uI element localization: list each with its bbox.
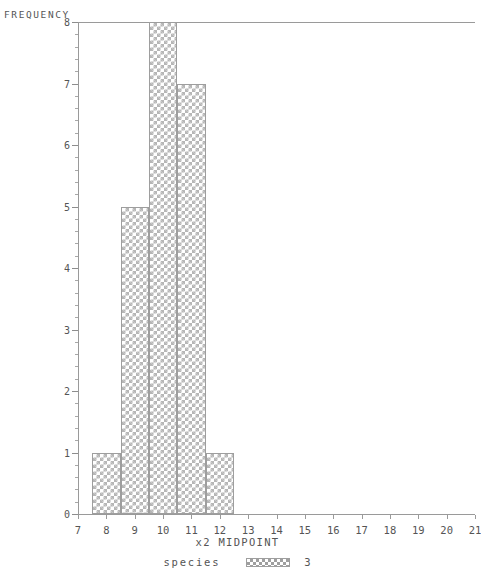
y-minor-tick [75,489,78,490]
y-minor-tick [75,293,78,294]
y-tick-label: 5 [64,201,70,212]
y-minor-tick [75,428,78,429]
legend-value: 3 [304,556,311,568]
y-minor-tick [75,96,78,97]
x-tick-label: 8 [103,524,109,536]
y-tick-mark [72,145,78,146]
plot-area: 012345678 789101112131415161718192021 [78,22,475,515]
y-minor-tick [75,243,78,244]
y-minor-tick [75,379,78,380]
x-tick-label: 9 [132,524,138,536]
y-tick-mark [72,22,78,23]
x-tick-mark [447,515,448,519]
x-tick-mark [475,515,476,519]
y-tick-label: 1 [64,447,70,458]
y-minor-tick [75,47,78,48]
y-minor-tick [75,59,78,60]
y-minor-tick [75,182,78,183]
y-tick-label: 6 [64,140,70,151]
x-tick-label: 19 [412,524,425,536]
y-tick-label: 8 [64,17,70,28]
x-tick-mark [191,515,192,519]
x-tick-mark [418,515,419,519]
x-tick-label: 11 [185,524,198,536]
y-minor-tick [75,34,78,35]
y-minor-tick [75,317,78,318]
y-axis-line [78,22,79,515]
y-minor-tick [75,502,78,503]
y-minor-tick [75,440,78,441]
y-minor-tick [75,416,78,417]
y-minor-tick [75,465,78,466]
legend-label: species [163,556,220,568]
chart-legend: species 3 [0,556,475,568]
bar-midpoint-11 [177,84,205,515]
x-tick-mark [277,515,278,519]
y-minor-tick [75,71,78,72]
x-tick-mark [78,515,79,519]
y-tick-mark [72,84,78,85]
y-minor-tick [75,219,78,220]
x-tick-mark [362,515,363,519]
x-tick-mark [106,515,107,519]
x-tick-mark [305,515,306,519]
x-tick-label: 13 [242,524,255,536]
y-minor-tick [75,170,78,171]
y-tick-label: 3 [64,324,70,335]
x-tick-label: 16 [327,524,340,536]
x-tick-mark [135,515,136,519]
y-tick-label: 4 [64,263,70,274]
x-tick-mark [220,515,221,519]
x-tick-label: 21 [469,524,481,536]
y-minor-tick [75,280,78,281]
x-tick-label: 10 [157,524,170,536]
y-minor-tick [75,342,78,343]
y-minor-tick [75,477,78,478]
x-tick-mark [248,515,249,519]
y-tick-label: 0 [64,509,70,520]
y-tick-mark [72,207,78,208]
y-minor-tick [75,157,78,158]
y-minor-tick [75,366,78,367]
bar-midpoint-12 [206,453,234,515]
y-tick-mark [72,268,78,269]
x-tick-label: 18 [384,524,397,536]
x-tick-mark [163,515,164,519]
y-minor-tick [75,231,78,232]
legend-swatch-icon [246,558,290,567]
x-tick-label: 12 [213,524,226,536]
y-minor-tick [75,120,78,121]
y-minor-tick [75,108,78,109]
y-minor-tick [75,256,78,257]
bar-midpoint-9 [121,207,149,515]
x-tick-label: 15 [299,524,312,536]
x-tick-mark [333,515,334,519]
x-tick-label: 20 [440,524,453,536]
y-tick-mark [72,453,78,454]
y-minor-tick [75,403,78,404]
x-axis-title: x2 MIDPOINT [0,536,475,548]
x-tick-label: 17 [355,524,368,536]
y-minor-tick [75,194,78,195]
x-tick-mark [390,515,391,519]
y-tick-label: 2 [64,386,70,397]
y-minor-tick [75,305,78,306]
y-axis-title: FREQUENCY [4,9,70,20]
plot-frame-top-line [78,22,475,23]
bar-midpoint-10 [149,22,177,514]
y-minor-tick [75,354,78,355]
x-tick-label: 7 [75,524,81,536]
y-tick-label: 7 [64,78,70,89]
bar-midpoint-8 [92,453,120,515]
y-tick-mark [72,391,78,392]
x-tick-label: 14 [270,524,283,536]
y-tick-mark [72,330,78,331]
y-minor-tick [75,133,78,134]
